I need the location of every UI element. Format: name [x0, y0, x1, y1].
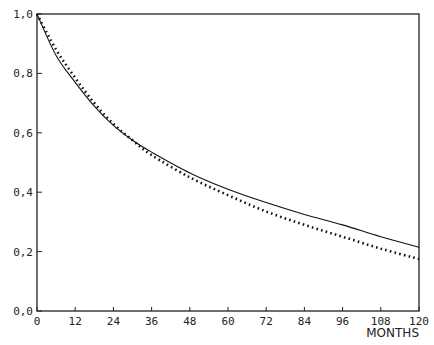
y-tick-label: 1,0	[13, 8, 33, 21]
dotted-curve	[37, 14, 419, 259]
x-axis-ticks: 01224364860728496108120	[34, 307, 429, 328]
x-tick-label: 48	[183, 315, 196, 328]
x-tick-label: 24	[107, 315, 121, 328]
y-tick-label: 0,2	[13, 246, 33, 259]
survival-chart: 01224364860728496108120 0,00,20,40,60,81…	[0, 0, 434, 345]
y-tick-label: 0,4	[13, 186, 33, 199]
y-tick-label: 0,8	[13, 67, 33, 80]
y-axis-ticks: 0,00,20,40,60,81,0	[13, 8, 42, 318]
y-tick-label: 0,0	[13, 305, 33, 318]
x-tick-label: 96	[336, 315, 349, 328]
solid-curve	[37, 14, 419, 247]
plot-border	[37, 14, 419, 311]
x-tick-label: 60	[221, 315, 234, 328]
x-axis-label: MONTHS	[366, 326, 419, 340]
plot-frame	[37, 14, 419, 311]
x-tick-label: 12	[69, 315, 82, 328]
x-tick-label: 36	[145, 315, 158, 328]
series-lines	[37, 14, 419, 259]
x-tick-label: 0	[34, 315, 41, 328]
x-tick-label: 72	[260, 315, 273, 328]
x-tick-label: 84	[298, 315, 312, 328]
y-tick-label: 0,6	[13, 127, 33, 140]
